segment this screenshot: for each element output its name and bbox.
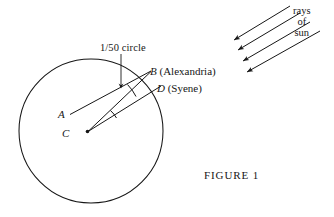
sun-label-line-1: rays xyxy=(293,5,311,16)
ray-a-to-b xyxy=(70,71,151,115)
sun-ray-1 xyxy=(234,6,290,40)
point-b-letter: B xyxy=(150,65,157,77)
sun-label-line-3: sun xyxy=(293,27,311,38)
point-c-letter: C xyxy=(62,127,69,139)
radius-c-to-d xyxy=(88,86,161,132)
figure-caption: FIGURE 1 xyxy=(204,170,259,182)
figure-container: 1/50 circle B (Alexandria) D (Syene) A C… xyxy=(0,0,334,217)
sun-rays-label: rays of sun xyxy=(293,5,311,38)
center-point-dot xyxy=(86,130,90,134)
point-a-label: A xyxy=(58,109,65,121)
point-c-label: C xyxy=(62,128,69,140)
point-b-label: B (Alexandria) xyxy=(150,66,216,78)
point-b-place: (Alexandria) xyxy=(159,65,215,77)
radius-c-to-b xyxy=(88,72,151,132)
point-d-label: D (Syene) xyxy=(157,83,202,95)
point-d-place: (Syene) xyxy=(168,82,202,94)
point-a-letter: A xyxy=(58,108,65,120)
sun-label-line-2: of xyxy=(293,16,311,27)
point-d-letter: D xyxy=(157,82,165,94)
one-fiftieth-circle-label: 1/50 circle xyxy=(100,42,146,53)
figure-drawing xyxy=(0,0,334,217)
